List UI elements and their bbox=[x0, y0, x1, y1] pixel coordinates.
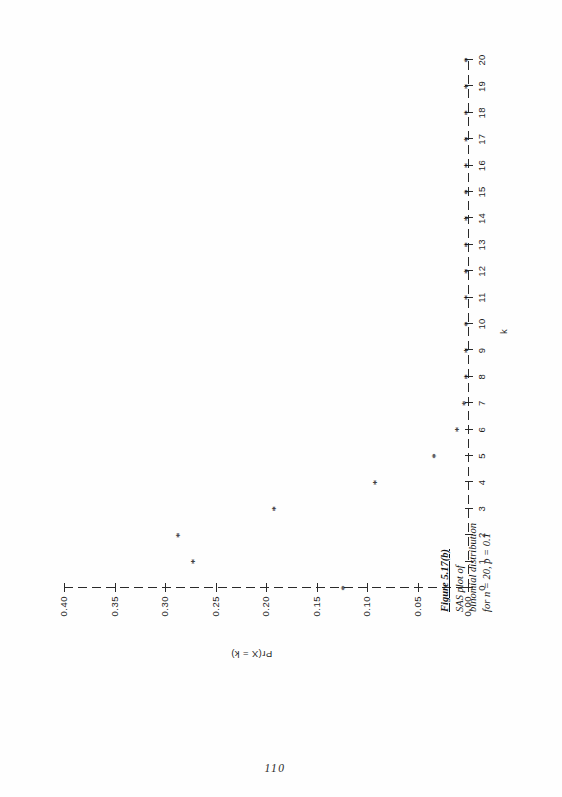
data-point: * bbox=[463, 294, 471, 302]
x-axis-title: k bbox=[498, 329, 509, 334]
y-tick-label: 0.30 bbox=[159, 596, 170, 658]
scanned-book-page: Pr(X = k) k 0.000.050.100.150.200.250.30… bbox=[0, 0, 562, 797]
data-point: * bbox=[463, 241, 471, 249]
y-tick-label: 0.35 bbox=[109, 596, 120, 658]
data-point: * bbox=[340, 584, 348, 592]
y-tick-label: 0.10 bbox=[361, 596, 372, 658]
x-tick-label: 12 bbox=[476, 261, 487, 281]
data-point: * bbox=[463, 267, 471, 275]
y-tick-label: 0.15 bbox=[311, 596, 322, 658]
y-tick-mark bbox=[165, 583, 166, 592]
y-tick-mark bbox=[418, 583, 419, 592]
caption-line-1: SAS plot of bbox=[453, 422, 467, 612]
x-tick-label: 7 bbox=[476, 393, 487, 413]
y-tick-label: 0.40 bbox=[58, 596, 69, 658]
caption-line-2: binomial distribution bbox=[466, 422, 480, 612]
y-tick-mark bbox=[64, 583, 65, 592]
data-point: * bbox=[463, 214, 471, 222]
data-point: * bbox=[463, 162, 471, 170]
x-tick-label: 20 bbox=[476, 50, 487, 70]
data-point: * bbox=[463, 346, 471, 354]
figure-caption: Figure 5.17(b) SAS plot of binomial dist… bbox=[438, 422, 493, 612]
y-tick-mark bbox=[216, 583, 217, 592]
y-tick-label: 0.05 bbox=[412, 596, 423, 658]
figure-number: Figure 5.17(b) bbox=[438, 422, 452, 612]
y-tick-label: 0.20 bbox=[260, 596, 271, 658]
data-point: * bbox=[461, 399, 469, 407]
data-point: * bbox=[372, 478, 380, 486]
data-point: * bbox=[190, 558, 198, 566]
x-tick-label: 9 bbox=[476, 340, 487, 360]
x-tick-label: 8 bbox=[476, 367, 487, 387]
x-tick-label: 10 bbox=[476, 314, 487, 334]
y-tick-mark bbox=[115, 583, 116, 592]
caption-line-3: for n = 20, p = 0.1 bbox=[480, 422, 494, 612]
figure-caption-region: Figure 5.17(b) SAS plot of binomial dist… bbox=[438, 432, 558, 612]
page-number: 110 bbox=[0, 762, 562, 774]
x-tick-label: 17 bbox=[476, 129, 487, 149]
y-tick-mark bbox=[317, 583, 318, 592]
y-tick-mark bbox=[266, 583, 267, 592]
data-point: * bbox=[463, 188, 471, 196]
x-tick-label: 14 bbox=[476, 208, 487, 228]
data-point: * bbox=[463, 82, 471, 90]
x-tick-label: 13 bbox=[476, 235, 487, 255]
data-point: * bbox=[463, 135, 471, 143]
data-point: * bbox=[175, 531, 183, 539]
x-tick-label: 15 bbox=[476, 182, 487, 202]
data-point: * bbox=[463, 56, 471, 64]
data-point: * bbox=[463, 109, 471, 117]
x-tick-label: 11 bbox=[476, 288, 487, 308]
x-tick-label: 19 bbox=[476, 76, 487, 96]
data-point: * bbox=[463, 373, 471, 381]
data-point: * bbox=[271, 505, 279, 513]
x-tick-label: 16 bbox=[476, 156, 487, 176]
y-tick-label: 0.25 bbox=[210, 596, 221, 658]
x-tick-label: 18 bbox=[476, 103, 487, 123]
y-tick-mark bbox=[367, 583, 368, 592]
data-point: * bbox=[463, 320, 471, 328]
